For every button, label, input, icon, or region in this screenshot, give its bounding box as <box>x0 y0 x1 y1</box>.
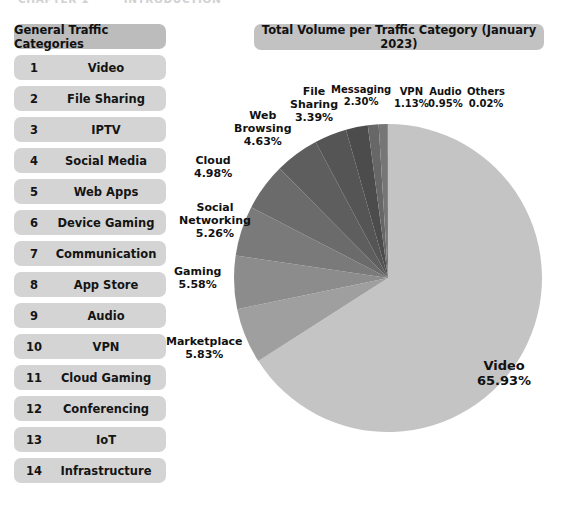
row-index: 14 <box>14 464 54 478</box>
slice-label-vpn: VPN 1.13% <box>394 86 429 110</box>
slice-value: 5.26% <box>179 228 251 241</box>
row-index: 7 <box>14 247 54 261</box>
row-index: 1 <box>14 61 54 75</box>
row-index: 12 <box>14 402 54 416</box>
row-index: 4 <box>14 154 54 168</box>
slice-value: 65.93% <box>477 373 531 388</box>
slice-label-audio: Audio 0.95% <box>428 86 463 110</box>
row-index: 10 <box>14 340 54 354</box>
row-index: 11 <box>14 371 54 385</box>
row-label: IoT <box>54 433 166 447</box>
row-index: 5 <box>14 185 54 199</box>
row-label: Video <box>54 61 166 75</box>
row-label: Audio <box>54 309 166 323</box>
slice-label-web-browsing: Web Browsing 4.63% <box>234 110 292 149</box>
pie-chart: Video 65.93% Marketplace 5.83% Gaming 5.… <box>172 0 588 510</box>
table-row[interactable]: 10 VPN <box>14 334 166 359</box>
row-label: Conferencing <box>54 402 166 416</box>
row-index: 2 <box>14 92 54 106</box>
slice-label-gaming: Gaming 5.58% <box>174 266 221 292</box>
table-row[interactable]: 7 Communication <box>14 241 166 266</box>
slice-name: Audio <box>428 86 463 98</box>
slice-label-cloud: Cloud 4.98% <box>194 155 232 181</box>
slice-value: 4.98% <box>194 168 232 181</box>
chart-panel: Total Volume per Traffic Category (Janua… <box>172 0 588 510</box>
slice-value: 0.02% <box>467 98 505 110</box>
table-header: General Traffic Categories <box>14 24 166 49</box>
row-label: Web Apps <box>54 185 166 199</box>
table-row[interactable]: 3 IPTV <box>14 117 166 142</box>
slice-name: VPN <box>394 86 429 98</box>
slice-value: 5.58% <box>174 279 221 292</box>
slice-name-2: Networking <box>179 215 251 228</box>
slice-label-video: Video 65.93% <box>477 358 531 389</box>
table-row[interactable]: 5 Web Apps <box>14 179 166 204</box>
row-index: 8 <box>14 278 54 292</box>
table-row[interactable]: 12 Conferencing <box>14 396 166 421</box>
row-index: 13 <box>14 433 54 447</box>
slice-value: 2.30% <box>331 96 391 108</box>
row-label: IPTV <box>54 123 166 137</box>
pie-chart-svg <box>172 0 588 510</box>
row-label: VPN <box>54 340 166 354</box>
table-row[interactable]: 6 Device Gaming <box>14 210 166 235</box>
slice-name: Messaging <box>331 84 391 96</box>
table-row[interactable]: 2 File Sharing <box>14 86 166 111</box>
slice-label-others: Others 0.02% <box>467 86 505 110</box>
slice-label-messaging: Messaging 2.30% <box>331 84 391 108</box>
slice-label-social-networking: Social Networking 5.26% <box>179 202 251 241</box>
slice-value: 3.39% <box>290 112 338 125</box>
row-label: Infrastructure <box>54 464 166 478</box>
slice-name: Others <box>467 86 505 98</box>
table-row[interactable]: 4 Social Media <box>14 148 166 173</box>
row-label: Cloud Gaming <box>54 371 166 385</box>
row-index: 6 <box>14 216 54 230</box>
general-traffic-categories-table: General Traffic Categories 1 Video 2 Fil… <box>14 24 166 489</box>
slice-name-2: Browsing <box>234 123 292 136</box>
slice-label-marketplace: Marketplace 5.83% <box>166 336 243 362</box>
row-index: 9 <box>14 309 54 323</box>
table-row[interactable]: 11 Cloud Gaming <box>14 365 166 390</box>
slice-value: 0.95% <box>428 98 463 110</box>
row-index: 3 <box>14 123 54 137</box>
row-label: App Store <box>54 278 166 292</box>
table-row[interactable]: 9 Audio <box>14 303 166 328</box>
slice-value: 1.13% <box>394 98 429 110</box>
slice-name: Video <box>477 358 531 373</box>
slice-value: 4.63% <box>234 136 292 149</box>
table-row[interactable]: 14 Infrastructure <box>14 458 166 483</box>
row-label: Device Gaming <box>54 216 166 230</box>
running-header-left: CHAPTER 1 <box>18 0 89 5</box>
table-row[interactable]: 8 App Store <box>14 272 166 297</box>
row-label: Communication <box>54 247 166 261</box>
row-label: Social Media <box>54 154 166 168</box>
slice-value: 5.83% <box>166 349 243 362</box>
row-label: File Sharing <box>54 92 166 106</box>
table-row[interactable]: 13 IoT <box>14 427 166 452</box>
table-row[interactable]: 1 Video <box>14 55 166 80</box>
